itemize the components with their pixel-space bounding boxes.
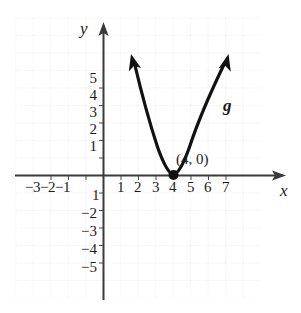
graph-figure: y x g (4, 0) −3−2−1 1 2 3 4 5 6 7 5 4 3 … — [0, 0, 301, 313]
curve-name-label: g — [223, 97, 232, 114]
y-tick-5: 5 — [83, 71, 97, 86]
x-tick-3: 3 — [152, 180, 160, 195]
y-tick-3: 3 — [83, 105, 97, 120]
x-tick-7: 7 — [222, 180, 230, 195]
y-tick-4: 4 — [83, 88, 97, 103]
x-tick-2: 2 — [134, 180, 142, 195]
x-tick-negative-cluster: −3−2−1 — [25, 180, 70, 195]
grid-background — [15, 18, 260, 298]
y-tick-2: 2 — [83, 122, 97, 137]
coordinate-plane-svg — [0, 0, 301, 313]
y-tick-neg-3: −3 — [81, 224, 97, 239]
y-axis-label: y — [80, 20, 88, 37]
y-tick-1: 1 — [83, 139, 97, 154]
y-tick-neg-2: −2 — [81, 206, 97, 221]
x-tick-1: 1 — [117, 180, 125, 195]
y-tick-neg-1: 1 — [92, 188, 100, 203]
vertex-coordinate-label: (4, 0) — [176, 152, 209, 167]
x-tick-4: 4 — [169, 180, 177, 195]
x-axis-label: x — [280, 182, 288, 199]
x-tick-5: 5 — [187, 180, 195, 195]
x-tick-6: 6 — [204, 180, 212, 195]
y-tick-neg-5: −5 — [81, 260, 97, 275]
y-tick-neg-4: −4 — [81, 242, 97, 257]
